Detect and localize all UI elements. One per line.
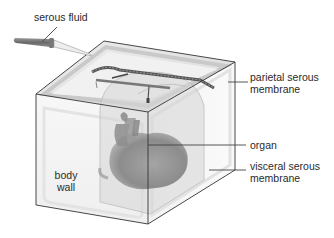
label-parietal-line2: membrane bbox=[250, 83, 300, 95]
label-organ: organ bbox=[250, 139, 277, 151]
diagram-artwork bbox=[0, 0, 334, 238]
label-wall: wall bbox=[52, 181, 80, 193]
serous-membrane-diagram: serous fluid parietal serous membrane or… bbox=[0, 0, 334, 238]
label-visceral-line1: visceral serous bbox=[250, 160, 320, 172]
label-body: body bbox=[52, 169, 80, 181]
dropper-icon bbox=[14, 38, 92, 56]
label-visceral-line2: membrane bbox=[250, 172, 300, 184]
label-parietal-line1: parietal serous bbox=[250, 71, 319, 83]
label-serous-fluid: serous fluid bbox=[34, 11, 88, 23]
